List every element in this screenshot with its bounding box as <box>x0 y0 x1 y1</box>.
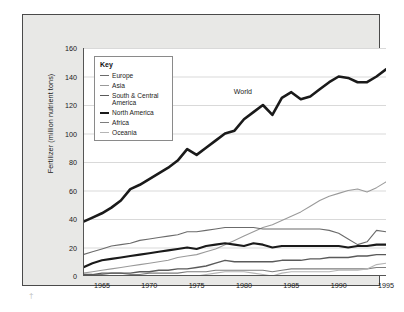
y-tick-label: 20 <box>47 243 77 252</box>
x-tick-label: 1975 <box>177 281 217 290</box>
legend-item-label: Asia <box>112 82 125 89</box>
x-tick-label: 1965 <box>82 281 122 290</box>
legend-item-asia: Asia <box>100 82 168 89</box>
y-tick-label: 80 <box>47 158 77 167</box>
legend-item-label: Europe <box>112 72 133 79</box>
footnote-dagger-mark: † <box>29 292 33 300</box>
legend-item-label: Oceania <box>112 129 137 136</box>
legend-box: Key EuropeAsiaSouth & Central AmericaNor… <box>94 56 173 141</box>
legend-item-label: South & Central America <box>112 92 168 107</box>
legend-item-africa: Africa <box>100 119 168 126</box>
legend-items: EuropeAsiaSouth & Central AmericaNorth A… <box>100 72 168 136</box>
chart-panel: Fertilizer (million nutrient tons) 02040… <box>22 14 380 286</box>
x-tick-label: 1980 <box>224 281 264 290</box>
x-tick-label: 1970 <box>129 281 169 290</box>
legend-line-swatch-icon <box>100 72 109 79</box>
y-tick-label: 160 <box>47 44 77 53</box>
x-tick-label: 1985 <box>271 281 311 290</box>
legend-line-swatch-icon <box>100 119 109 126</box>
series-annotation-world: World <box>234 88 252 95</box>
legend-item-south-central-america: South & Central America <box>100 92 168 107</box>
legend-line-swatch-icon <box>100 109 109 116</box>
legend-title: Key <box>100 61 168 69</box>
y-tick-label: 120 <box>47 101 77 110</box>
legend-item-label: Africa <box>112 119 129 126</box>
legend-line-swatch-icon <box>100 82 109 89</box>
y-tick-label: 140 <box>47 72 77 81</box>
y-tick-label: 40 <box>47 215 77 224</box>
x-tick-label: 1995 <box>366 281 404 290</box>
legend-item-oceania: Oceania <box>100 129 168 136</box>
legend-item-europe: Europe <box>100 72 168 79</box>
y-tick-label: 100 <box>47 129 77 138</box>
legend-item-north-america: North America <box>100 109 168 116</box>
y-tick-label: 60 <box>47 186 77 195</box>
legend-line-swatch-icon <box>100 129 109 136</box>
legend-item-label: North America <box>112 109 154 116</box>
x-tick-label: 1990 <box>319 281 359 290</box>
chart-figure: Fertilizer (million nutrient tons) 02040… <box>0 0 404 312</box>
y-tick-label: 0 <box>47 272 77 281</box>
legend-line-swatch-icon <box>100 92 109 99</box>
